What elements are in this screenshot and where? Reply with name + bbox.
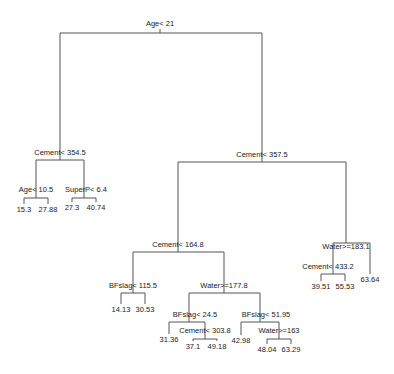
split-label: SuperP< 6.4 (65, 185, 107, 194)
leaf-value: 37.1 (186, 342, 201, 351)
leaf-value: 31.36 (160, 335, 179, 344)
split-label: Cement< 164.8 (152, 240, 204, 249)
leaf-value: 27.88 (39, 205, 58, 214)
leaf-value: 39.51 (312, 282, 331, 291)
split-label: BFslag< 24.5 (173, 310, 217, 319)
split-label: BFslag< 51.95 (242, 310, 291, 319)
split-label: Cement< 303.8 (179, 326, 231, 335)
split-label: Cement< 354.5 (34, 148, 86, 157)
split-label: Water>=177.8 (200, 281, 247, 290)
leaf-value: 49.18 (208, 342, 227, 351)
leaf-value: 55.53 (336, 282, 355, 291)
leaf-value: 30.53 (136, 305, 155, 314)
leaf-value: 48.04 (258, 345, 277, 354)
split-label: Cement< 357.5 (236, 150, 288, 159)
leaf-value: 27.3 (65, 203, 80, 212)
leaf-value: 63.29 (282, 345, 301, 354)
leaf-value: 14.13 (112, 305, 131, 314)
regression-tree-diagram: Age< 21Cement< 354.5Age< 10.5SuperP< 6.4… (0, 0, 394, 374)
split-label: Water>=163 (259, 326, 300, 335)
split-label: Cement< 433.2 (302, 262, 354, 271)
split-label: BFslag< 115.5 (109, 281, 157, 290)
leaf-value: 40.74 (87, 203, 106, 212)
split-label: Age< 10.5 (19, 185, 53, 194)
leaf-value: 42.98 (232, 336, 251, 345)
split-label: Age< 21 (146, 19, 174, 28)
leaf-value: 63.64 (361, 275, 380, 284)
split-label: Water>=183.1 (322, 242, 369, 251)
leaf-value: 15.3 (17, 205, 32, 214)
tree-labels: Age< 21Cement< 354.5Age< 10.5SuperP< 6.4… (17, 19, 380, 354)
